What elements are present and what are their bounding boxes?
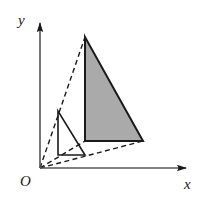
dashed-ray-to-right-base bbox=[40, 141, 143, 168]
large-shaded-triangle bbox=[85, 37, 143, 141]
origin-label: O bbox=[20, 174, 31, 189]
y-axis-label: y bbox=[18, 13, 25, 28]
dashed-ray-to-apex bbox=[40, 37, 85, 168]
geometry-figure: y x O bbox=[0, 0, 206, 209]
x-axis-label: x bbox=[184, 177, 191, 192]
